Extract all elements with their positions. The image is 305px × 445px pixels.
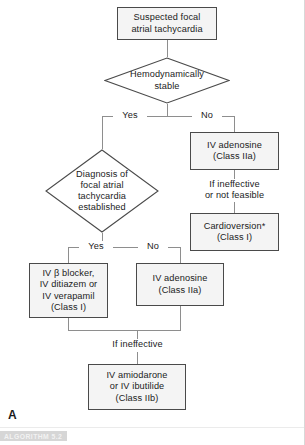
node-hemodynamically-stable-decision: Hemodynamically stable	[104, 57, 230, 104]
footer-divider	[0, 427, 305, 428]
node-line: focal atrial	[53, 180, 151, 191]
node-line: IV adenosine	[139, 273, 221, 284]
node-iv-amiodarone-ibutilide: IV amiodarone or IV ibutilide (Class IIb…	[88, 364, 186, 410]
node-line: tachycardia	[53, 191, 151, 202]
connector-merge-bus	[68, 330, 181, 331]
node-iv-adenosine-diagnostic: IV adenosine (Class IIa)	[136, 263, 224, 306]
node-iv-beta-blocker-diltiazem-verapamil: IV β blocker, IV ditiazem or IV verapami…	[29, 263, 108, 318]
node-line: IV β blocker,	[32, 268, 105, 279]
node-line: (Class IIb)	[91, 393, 183, 404]
panel-letter: A	[8, 408, 17, 422]
connector-adenosine-dx-down	[180, 306, 181, 330]
connector-stable-yes	[102, 116, 103, 149]
node-line: IV amiodarone	[91, 370, 183, 381]
node-line: stable	[113, 81, 221, 92]
node-cardioversion: Cardioversion* (Class I)	[190, 213, 279, 251]
node-line: or IV ibutilide	[91, 381, 183, 392]
connector-ineffective-to-cardioversion	[234, 202, 235, 213]
node-line: (Class IIa)	[193, 151, 276, 162]
connector-diagnosis-yes	[68, 247, 69, 263]
connector-stable-no	[234, 116, 235, 132]
node-line: IV ditiazem or	[32, 279, 105, 290]
connector-stable-stem	[167, 104, 168, 116]
node-line: Hemodynamically	[113, 69, 221, 80]
edge-label-if-ineffective: If ineffective	[104, 339, 171, 350]
edge-label-line: If ineffective	[190, 179, 279, 190]
node-line: (Class I)	[32, 302, 105, 313]
edge-label-diagnosis-yes: Yes	[79, 241, 113, 252]
edge-label-diagnosis-no: No	[138, 241, 168, 252]
connector-start-to-stable	[167, 40, 168, 57]
node-line: IV verapamil	[32, 291, 105, 302]
connector-diagnosis-no	[180, 247, 181, 263]
node-line: (Class I)	[193, 232, 276, 243]
node-suspected-focal-atrial-tachycardia: Suspected focal atrial tachycardia	[117, 7, 217, 40]
node-line: Diagnosis of	[53, 169, 151, 180]
edge-label-stable-no: No	[192, 110, 222, 121]
edge-label-if-ineffective-or-not-feasible: If ineffective or not feasible	[190, 179, 279, 202]
edge-label-stable-yes: Yes	[113, 110, 147, 121]
connector-merge-stem	[137, 330, 138, 339]
connector-to-amiodarone	[137, 352, 138, 364]
node-iv-adenosine-unstable: IV adenosine (Class IIa)	[190, 132, 279, 170]
connector-ratecontrol-down	[68, 318, 69, 330]
algorithm-figure: Suspected focal atrial tachycardia Hemod…	[0, 0, 305, 445]
node-line: atrial tachycardia	[120, 24, 214, 35]
node-line: Cardioversion*	[193, 221, 276, 232]
node-diagnosis-established-decision: Diagnosis of focal atrial tachycardia es…	[45, 149, 159, 233]
node-line: established	[53, 202, 151, 213]
node-line: (Class IIa)	[139, 285, 221, 296]
edge-label-line: or not feasible	[190, 190, 279, 201]
algorithm-banner: ALGORITHM 5.2	[0, 431, 67, 441]
node-line: IV adenosine	[193, 140, 276, 151]
node-line: Suspected focal	[120, 12, 214, 23]
